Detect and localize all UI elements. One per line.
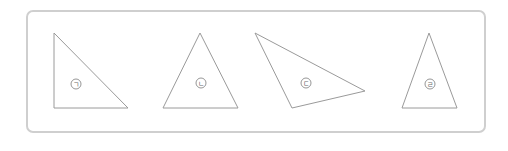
triangles-figure: ㄱ ㄴ ㄷ ㄹ	[0, 0, 508, 151]
triangle-label: ㄹ	[427, 81, 433, 89]
triangle-giyeok: ㄱ	[54, 33, 128, 108]
triangle-shape	[163, 33, 238, 108]
triangle-shape	[402, 33, 457, 108]
triangle-label: ㄴ	[198, 80, 204, 88]
triangle-shape	[54, 33, 128, 108]
triangle-digeut: ㄷ	[255, 33, 365, 108]
triangle-label: ㄱ	[73, 81, 79, 89]
triangle-label: ㄷ	[303, 80, 309, 88]
triangle-shape	[255, 33, 365, 108]
triangle-nieun: ㄴ	[163, 33, 238, 108]
triangle-rieul: ㄹ	[402, 33, 457, 108]
